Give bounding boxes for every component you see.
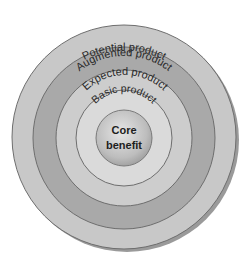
core-label-line1: Core — [111, 124, 136, 136]
core-benefit-circle — [96, 110, 152, 166]
product-levels-diagram: Potential product Augmented product Expe… — [0, 0, 248, 264]
core-label-line2: benefit — [106, 139, 142, 151]
